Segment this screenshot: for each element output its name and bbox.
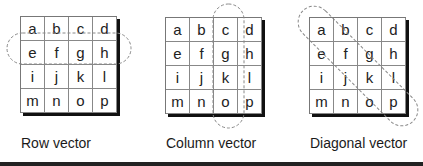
cell-b: b	[190, 18, 214, 42]
cell-o: o	[214, 90, 238, 114]
cell-g: g	[214, 42, 238, 66]
cell-l: l	[238, 66, 262, 90]
cell-f: f	[190, 42, 214, 66]
cell-d: d	[238, 18, 262, 42]
cell-i: i	[21, 65, 45, 89]
cell-a: a	[21, 17, 45, 41]
cell-k: k	[69, 65, 93, 89]
cell-k: k	[214, 66, 238, 90]
cell-f: f	[45, 41, 69, 65]
row-vector-panel: a b c d e f g h i j k l m n o p Row vect…	[0, 0, 140, 160]
row-vector-label: Row vector	[21, 135, 91, 151]
cell-o: o	[69, 89, 93, 113]
matrix-grid: a b c d e f g h i j k l m n o p	[309, 17, 406, 114]
cell-a: a	[166, 18, 190, 42]
cell-b: b	[334, 18, 358, 42]
cell-h: h	[238, 42, 262, 66]
cell-b: b	[45, 17, 69, 41]
cell-n: n	[45, 89, 69, 113]
matrix-grid: a b c d e f g h i j k l m n o p	[20, 16, 117, 113]
cell-i: i	[310, 66, 334, 90]
bottom-rule	[0, 162, 423, 166]
cell-m: m	[21, 89, 45, 113]
cell-m: m	[166, 90, 190, 114]
cell-g: g	[69, 41, 93, 65]
cell-i: i	[166, 66, 190, 90]
cell-h: h	[382, 42, 406, 66]
matrix-grid: a b c d e f g h i j k l m n o p	[165, 17, 262, 114]
cell-k: k	[358, 66, 382, 90]
cell-m: m	[310, 90, 334, 114]
cell-d: d	[93, 17, 117, 41]
column-vector-label: Column vector	[166, 135, 256, 151]
cell-n: n	[334, 90, 358, 114]
cell-c: c	[214, 18, 238, 42]
cell-g: g	[358, 42, 382, 66]
cell-j: j	[190, 66, 214, 90]
cell-o: o	[358, 90, 382, 114]
cell-d: d	[382, 18, 406, 42]
cell-c: c	[358, 18, 382, 42]
cell-p: p	[93, 89, 117, 113]
cell-f: f	[334, 42, 358, 66]
cell-c: c	[69, 17, 93, 41]
cell-e: e	[21, 41, 45, 65]
cell-l: l	[382, 66, 406, 90]
cell-p: p	[382, 90, 406, 114]
cell-e: e	[310, 42, 334, 66]
cell-j: j	[334, 66, 358, 90]
cell-j: j	[45, 65, 69, 89]
cell-e: e	[166, 42, 190, 66]
cell-l: l	[93, 65, 117, 89]
diagonal-vector-panel: a b c d e f g h i j k l m n o p Diagonal…	[289, 0, 423, 160]
cell-p: p	[238, 90, 262, 114]
cell-a: a	[310, 18, 334, 42]
cell-h: h	[93, 41, 117, 65]
cell-n: n	[190, 90, 214, 114]
column-vector-panel: a b c d e f g h i j k l m n o p Column v…	[145, 0, 285, 160]
diagonal-vector-label: Diagonal vector	[310, 135, 407, 151]
